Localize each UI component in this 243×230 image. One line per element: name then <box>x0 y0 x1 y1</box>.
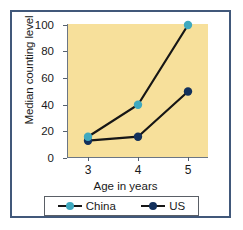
line-chart: Median counting level 0 20 40 60 80 100 … <box>12 12 229 216</box>
series-markers-china <box>84 21 192 141</box>
legend-label-us: US <box>169 200 185 212</box>
legend-item-us: US <box>141 200 185 212</box>
series-line-china <box>88 25 188 137</box>
legend-marker-china-icon <box>58 201 82 211</box>
legend-item-china: China <box>58 200 116 212</box>
x-axis-title: Age in years <box>48 180 203 192</box>
legend-label-china: China <box>86 200 116 212</box>
legend-marker-us-icon <box>141 201 165 211</box>
series-markers-us <box>84 87 192 145</box>
figure-frame: Median counting level 0 20 40 60 80 100 … <box>10 10 231 218</box>
legend: China US <box>44 196 199 216</box>
